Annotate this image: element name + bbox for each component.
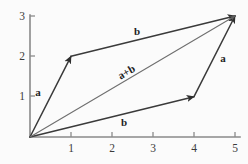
label-b-top: b [134, 25, 140, 37]
y-tick-label-2: 2 [19, 50, 25, 62]
y-axis-ticks: 1 2 3 [19, 10, 35, 102]
y-tick-label-1: 1 [19, 90, 25, 102]
vector-diagram-figure: 1 2 3 4 5 1 2 3 [0, 0, 248, 164]
x-tick-label-2: 2 [109, 142, 115, 154]
label-a-right: a [220, 52, 226, 64]
vector-b-from-origin [30, 97, 194, 137]
vector-diagram-canvas: 1 2 3 4 5 1 2 3 [0, 0, 248, 164]
vector-b-from-a-tip [71, 16, 235, 56]
label-b-bottom: b [121, 116, 127, 128]
x-tick-label-5: 5 [232, 142, 238, 154]
label-a-plus-b: a+b [116, 62, 137, 81]
x-tick-label-1: 1 [68, 142, 74, 154]
x-tick-label-4: 4 [191, 142, 197, 154]
label-a-left: a [35, 86, 41, 98]
x-tick-label-3: 3 [150, 142, 156, 154]
vectors-group [30, 16, 235, 137]
x-axis-ticks: 1 2 3 4 5 [68, 132, 238, 154]
y-tick-label-3: 3 [19, 10, 25, 22]
